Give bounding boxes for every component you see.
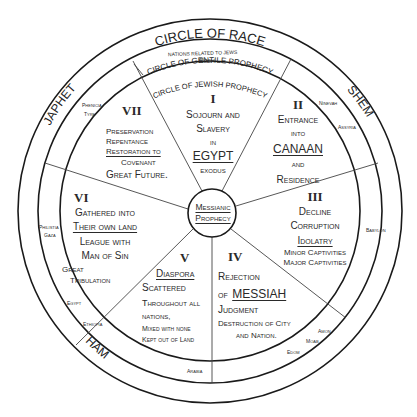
nation-philistia: Philistia [39,225,59,230]
nation-rosh: Rosh [199,58,215,65]
sector-v-line: Throughout all [142,299,212,308]
sector-vii-line: Covenant [106,159,186,167]
nation-tyre: Tyre [84,112,95,117]
sector-iv-of: of [218,289,228,300]
sector-vi-line: League with [60,237,150,248]
sector-vii-numeral: VII [106,104,186,118]
sector-v: V Diaspora Scattered Throughout all nati… [142,251,212,343]
sector-ii-line: into [258,130,338,138]
sector-vii-line: Preservation [106,128,186,136]
nation-arabia: Arabia [187,369,202,374]
race-japhet-label: JAPHET [40,81,79,128]
sector-v-line: nations, [142,313,212,321]
sector-vi-numeral: VI [60,191,150,205]
sector-vi-line: Man of Sin [60,251,150,262]
sector-vi: VI Gathered into Their own land League w… [60,191,150,285]
sector-ii: II Entrance into CANAAN and Residence [258,98,338,185]
sector-iv-line: Rejection [218,272,318,283]
nation-ethiopia: Ethiopia [83,322,102,327]
sector-v-numeral: V [142,251,212,265]
sector-iv-numeral: IV [218,250,318,264]
sector-vi-line: Their own land [60,222,150,233]
sector-iv-line: and Nation. [218,332,318,340]
sector-iv-line: Judgment [218,305,318,316]
nation-assyria: Assyria [338,125,356,130]
sector-ii-line: Residence [258,175,338,186]
sector-v-line: Kept out of Land [142,336,212,343]
nation-phenicia: Phenicia [82,103,102,108]
circle-of-race-title: CIRCLE OF RACE [153,26,268,50]
nation-babylon: Babylon [366,228,386,233]
center-messianic-prophecy: Messianic Prophecy [190,203,236,223]
sector-ii-canaan: CANAAN [258,143,338,156]
sector-iii-line: Decline [270,207,360,218]
sector-iii-numeral: III [270,190,360,204]
sector-ii-line: and [258,161,338,169]
sector-iii-line: Corruption [270,221,360,232]
sector-v-line: Mixed with none [142,325,212,332]
sector-iv-messiah-row: of MESSIAH [218,285,318,302]
sector-vii-line: Repentance [106,138,186,146]
sector-vii-line: Restoration to [106,148,186,156]
nation-amon: Amon [318,329,331,334]
sector-vi-line: Great [60,266,150,274]
sector-iv-line: Destruction of City [218,320,318,328]
sector-iv: IV Rejection of MESSIAH Judgment Destruc… [218,250,318,340]
nation-gaza: Gaza [44,233,56,238]
sector-ii-numeral: II [258,98,338,112]
sector-v-diaspora: Diaspora [142,269,212,280]
sector-ii-line: Entrance [258,115,338,126]
sector-vi-line: Tribulation [60,277,150,285]
sector-vii: VII Preservation Repentance Restoration … [106,104,186,181]
center-line-1: Messianic [190,203,236,212]
race-ham-label: HAM [83,334,112,362]
nation-edom: Edom [287,350,300,355]
center-line-2: Prophecy [190,214,236,223]
nation-egypt: Egypt [67,301,81,306]
sector-iii-idolatry: Idolatry [270,236,360,247]
sector-v-line: Scattered [142,283,212,294]
race-shem-label: SHEM [344,83,376,120]
sector-vi-line: Gathered into [60,208,150,219]
sector-vii-line: Great Future. [106,170,186,181]
sector-iv-messiah: MESSIAH [232,287,286,301]
